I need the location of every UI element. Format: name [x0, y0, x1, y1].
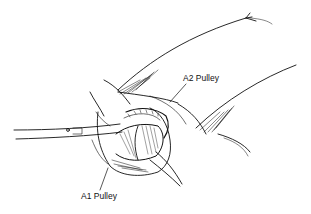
a2-leader	[170, 84, 186, 102]
finger-upper-contour	[118, 18, 246, 90]
instrument-lower	[16, 132, 122, 139]
hand-surgery-drawing	[0, 0, 311, 214]
a1-leader	[100, 168, 108, 190]
a2-pulley-label: A2 Pulley	[183, 73, 219, 83]
a1-pulley-label: A1 Pulley	[81, 191, 117, 201]
